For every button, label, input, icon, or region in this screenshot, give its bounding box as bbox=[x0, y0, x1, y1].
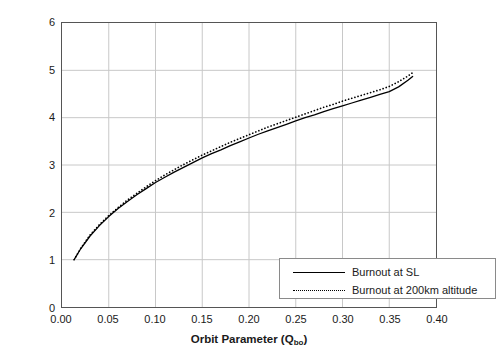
series-line-0 bbox=[74, 76, 412, 259]
plot-area: Burnout at SL Burnout at 200km altitude bbox=[61, 22, 437, 308]
x-tick-label: 0.40 bbox=[412, 313, 462, 325]
legend-item-0: Burnout at SL bbox=[280, 263, 495, 281]
x-tick-label: 0.15 bbox=[177, 313, 227, 325]
legend-line-icon-solid bbox=[291, 267, 347, 277]
x-tick-label: 0.30 bbox=[318, 313, 368, 325]
x-tick-label: 0.35 bbox=[365, 313, 415, 325]
x-axis-tick-labels: 0.000.050.100.150.200.250.300.350.40 bbox=[0, 313, 464, 329]
legend-line-icon-dotted bbox=[291, 285, 347, 295]
y-tick-label: 2 bbox=[33, 207, 55, 219]
x-axis-title: Orbit Parameter (Qbo) bbox=[61, 333, 437, 345]
x-tick-label: 0.10 bbox=[130, 313, 180, 325]
x-axis-title-subscript: bo bbox=[294, 338, 304, 347]
legend-label-0: Burnout at SL bbox=[352, 266, 419, 278]
x-tick-label: 0.00 bbox=[36, 313, 86, 325]
x-tick-label: 0.20 bbox=[224, 313, 274, 325]
x-axis-title-tail: ) bbox=[303, 333, 307, 345]
x-axis-title-main: Orbit Parameter (Q bbox=[191, 333, 294, 345]
legend-label-1: Burnout at 200km altitude bbox=[352, 284, 477, 296]
series-line-1 bbox=[74, 73, 412, 260]
x-tick-label: 0.05 bbox=[83, 313, 133, 325]
legend: Burnout at SL Burnout at 200km altitude bbox=[279, 258, 496, 299]
y-tick-label: 5 bbox=[33, 64, 55, 76]
y-tick-label: 4 bbox=[33, 111, 55, 123]
y-tick-label: 3 bbox=[33, 159, 55, 171]
y-tick-label: 6 bbox=[33, 16, 55, 28]
legend-item-1: Burnout at 200km altitude bbox=[280, 281, 495, 299]
x-tick-label: 0.25 bbox=[271, 313, 321, 325]
y-tick-label: 1 bbox=[33, 254, 55, 266]
